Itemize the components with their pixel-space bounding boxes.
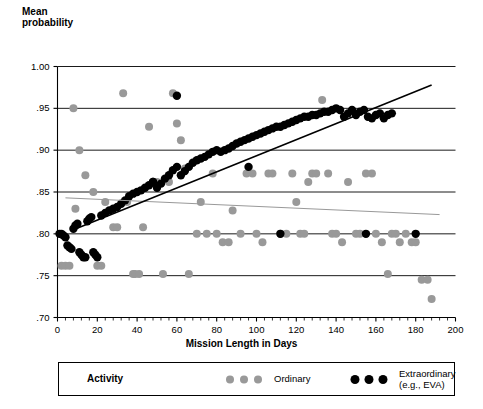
y-tick-label: .75 (20, 270, 50, 281)
y-tick-label: 1.00 (20, 61, 50, 72)
axis-ticks (54, 67, 456, 322)
regression-line-extraordinary (73, 85, 431, 230)
x-tick-label: 60 (162, 324, 192, 335)
y-tick-label: .70 (20, 312, 50, 323)
y-tick-label: .85 (20, 186, 50, 197)
legend-swatch-ordinary (224, 374, 268, 385)
legend-swatch-extraordinary (349, 374, 393, 385)
scatter-series-ordinary (57, 89, 435, 303)
y-tick-label: .90 (20, 144, 50, 155)
chart-container: Mean probability Mission Length in Days … (0, 0, 483, 409)
x-tick-label: 160 (361, 324, 391, 335)
x-tick-label: 120 (281, 324, 311, 335)
gridlines (58, 67, 456, 276)
x-tick-label: 80 (202, 324, 232, 335)
x-tick-label: 200 (441, 324, 471, 335)
legend-title: Activity (87, 373, 123, 384)
y-tick-label: .80 (20, 228, 50, 239)
x-tick-label: 20 (82, 324, 112, 335)
x-tick-label: 180 (401, 324, 431, 335)
plot-area (0, 0, 483, 409)
y-tick-label: .95 (20, 102, 50, 113)
x-tick-label: 0 (43, 324, 73, 335)
legend: Activity Ordinary Extraordinary (e.g., E… (58, 362, 455, 396)
x-tick-label: 100 (242, 324, 272, 335)
x-tick-label: 140 (321, 324, 351, 335)
legend-label-extraordinary: Extraordinary (e.g., EVA) (399, 369, 456, 390)
x-tick-label: 40 (122, 324, 152, 335)
legend-label-ordinary: Ordinary (274, 374, 310, 385)
